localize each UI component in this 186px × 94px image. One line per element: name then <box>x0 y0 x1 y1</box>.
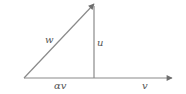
vector-w <box>24 4 94 78</box>
label-v: v <box>142 80 148 91</box>
vector-diagram: w u αv v <box>0 0 186 94</box>
label-w: w <box>45 34 54 45</box>
label-alpha-v: αv <box>54 80 67 91</box>
label-u: u <box>97 37 103 48</box>
